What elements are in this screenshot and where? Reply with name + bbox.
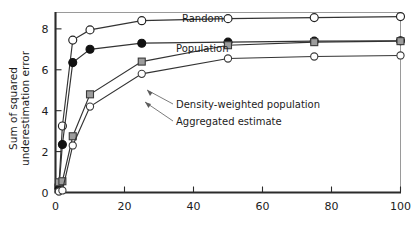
chart-figure: 02040608010002468Sum of squaredunderesti… [0,0,420,227]
x-tick-label: 40 [187,200,201,213]
y-axis-title-line2: underestimation error [19,50,31,166]
y-tick-label: 6 [42,64,49,77]
x-tick-label: 60 [256,200,270,213]
data-point [86,103,93,110]
data-point [138,58,145,65]
x-tick-label: 100 [390,200,411,213]
series-line [59,41,401,182]
x-tick-label: 20 [118,200,132,213]
data-point [138,70,145,77]
data-point [86,45,94,53]
data-point [69,59,77,67]
y-axis-title-line1: Sum of squared [7,67,19,150]
data-point [311,53,318,60]
annotation-random: Random [182,13,223,24]
data-point [69,36,77,44]
data-point [58,140,66,148]
data-point [138,17,146,25]
annotation-density-weighted-population: Density-weighted population [176,99,320,110]
data-point [138,39,146,47]
data-point [224,55,231,62]
annotations: RandomPopulationDensity-weighted populat… [145,13,320,127]
y-axis-ticks: 02468 [42,23,62,200]
data-point [87,91,94,98]
y-tick-label: 4 [42,105,49,118]
y-tick-label: 2 [42,146,49,159]
x-tick-label: 80 [325,200,339,213]
y-tick-label: 0 [42,187,49,200]
annotation-population: Population [176,43,229,54]
data-point [397,38,404,45]
series-line [59,41,401,189]
data-point [310,14,318,22]
leader-arrow-aggregated [145,102,151,108]
y-axis-title: Sum of squaredunderestimation error [7,50,31,166]
data-point [397,13,405,21]
data-point [59,187,66,194]
leader-arrow-density [147,90,153,96]
data-point [86,26,94,34]
data-point [224,15,232,23]
data-point [69,142,76,149]
y-tick-label: 8 [42,23,49,36]
line-chart: 02040608010002468Sum of squaredunderesti… [0,0,420,227]
data-point [311,39,318,46]
annotation-aggregated-estimate: Aggregated estimate [176,116,282,127]
data-point [397,52,404,59]
x-axis-ticks: 020406080100 [52,187,411,213]
x-tick-label: 0 [52,200,59,213]
